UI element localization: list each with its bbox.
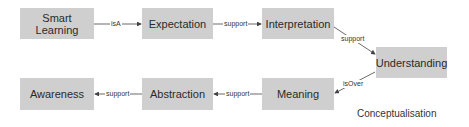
node-abstraction: Abstraction — [142, 78, 213, 110]
node-understanding: Understanding — [376, 47, 447, 78]
node-awareness-label: Awareness — [30, 88, 84, 100]
node-interpretation-label: Interpretation — [266, 18, 331, 30]
node-smart-learning-line1: Smart — [42, 12, 71, 24]
node-meaning-label: Meaning — [277, 88, 319, 100]
node-understanding-label: Understanding — [376, 57, 448, 69]
node-expectation: Expectation — [142, 8, 213, 39]
edge-label-support-3: support — [225, 90, 250, 98]
node-smart-learning-line2: Learning — [36, 24, 79, 36]
node-smart-learning: Smart Learning — [20, 8, 94, 39]
edge-label-support-4: support — [105, 90, 130, 98]
node-meaning: Meaning — [262, 78, 334, 110]
edge-label-support-2: support — [340, 35, 365, 43]
node-interpretation: Interpretation — [262, 8, 334, 39]
node-abstraction-label: Abstraction — [150, 88, 205, 100]
edge-label-isa: isA — [110, 20, 122, 28]
edge-label-support-1: support — [223, 20, 248, 28]
edge-label-isover: isOver — [342, 80, 364, 88]
node-awareness: Awareness — [20, 78, 94, 110]
diagram-caption: Conceptualisation — [357, 108, 437, 119]
node-expectation-label: Expectation — [149, 18, 206, 30]
